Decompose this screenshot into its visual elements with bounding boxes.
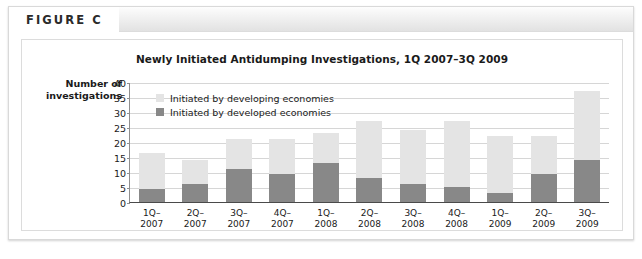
y-tick-label: 20 [114,138,126,149]
bar-group: 1Q–2009 [478,83,522,202]
bar-segment-developed [531,174,557,203]
y-tick-label: 15 [114,153,126,164]
bar-segment-developing [139,153,165,189]
y-tick-label: 5 [120,183,126,194]
chart-panel: Newly Initiated Antidumping Investigatio… [21,39,623,231]
bar-stack[interactable] [444,121,470,202]
plot-area: 0510152025303540 1Q–20072Q–20073Q–20074Q… [129,83,609,203]
bar-segment-developed [400,184,426,202]
bar-stack[interactable] [531,136,557,202]
legend-swatch-developing [156,94,164,102]
y-tick-label: 10 [114,168,126,179]
bar-group: 2Q–2009 [522,83,566,202]
figure-frame: FIGURE C Newly Initiated Antidumping Inv… [8,6,634,240]
x-tick-label: 2Q–2009 [532,208,555,230]
x-tick-label: 4Q–2007 [271,208,294,230]
bar-segment-developing [226,139,252,169]
plot-inner: 0510152025303540 1Q–20072Q–20073Q–20074Q… [129,83,609,203]
y-tick-label: 35 [114,93,126,104]
y-tick-label: 40 [114,78,126,89]
legend-swatch-developed [156,108,164,116]
bar-stack[interactable] [313,133,339,202]
figure-label: FIGURE C [26,13,103,27]
x-tick-label: 1Q–2008 [314,208,337,230]
bar-segment-developed [487,193,513,202]
bar-segment-developing [531,136,557,174]
bar-segment-developing [487,136,513,193]
bar-segment-developing [269,139,295,174]
bar-segment-developed [444,187,470,202]
bar-group: 3Q–2009 [565,83,609,202]
legend-label: Initiated by developed economies [170,107,331,118]
bar-segment-developed [182,184,208,202]
bar-segment-developed [313,163,339,202]
bar-stack[interactable] [356,121,382,202]
bar-segment-developing [356,121,382,178]
x-tick-label: 1Q–2007 [140,208,163,230]
bar-segment-developed [226,169,252,202]
legend-item: Initiated by developing economies [156,91,334,105]
y-tick-label: 25 [114,123,126,134]
bar-segment-developing [313,133,339,163]
bar-stack[interactable] [139,153,165,203]
bar-group: 4Q–2008 [435,83,479,202]
legend-label: Initiated by developing economies [170,93,334,104]
bar-stack[interactable] [574,91,600,202]
bar-segment-developing [400,130,426,184]
y-tick-mark [127,203,130,204]
x-tick-label: 2Q–2007 [184,208,207,230]
bar-segment-developed [356,178,382,202]
x-tick-label: 3Q–2007 [227,208,250,230]
bar-segment-developed [574,160,600,202]
x-tick-label: 3Q–2009 [576,208,599,230]
y-tick-label: 0 [120,198,126,209]
x-tick-label: 1Q–2009 [489,208,512,230]
bar-segment-developed [269,174,295,203]
chart-title: Newly Initiated Antidumping Investigatio… [22,53,622,65]
bar-segment-developing [444,121,470,187]
bar-segment-developing [574,91,600,160]
bar-group: 3Q–2008 [391,83,435,202]
chart-legend: Initiated by developing economiesInitiat… [156,91,334,119]
bar-stack[interactable] [182,160,208,202]
legend-item: Initiated by developed economies [156,105,334,119]
bar-stack[interactable] [226,139,252,202]
figure-header-band: FIGURE C [9,7,633,32]
bar-group: 2Q–2008 [348,83,392,202]
bar-stack[interactable] [269,139,295,202]
bar-stack[interactable] [487,136,513,202]
y-axis-title: Number of investigations [30,78,122,101]
bar-stack[interactable] [400,130,426,202]
x-tick-label: 3Q–2008 [402,208,425,230]
x-tick-label: 4Q–2008 [445,208,468,230]
bar-segment-developing [182,160,208,184]
bar-segment-developed [139,189,165,203]
x-tick-label: 2Q–2008 [358,208,381,230]
y-tick-label: 30 [114,108,126,119]
